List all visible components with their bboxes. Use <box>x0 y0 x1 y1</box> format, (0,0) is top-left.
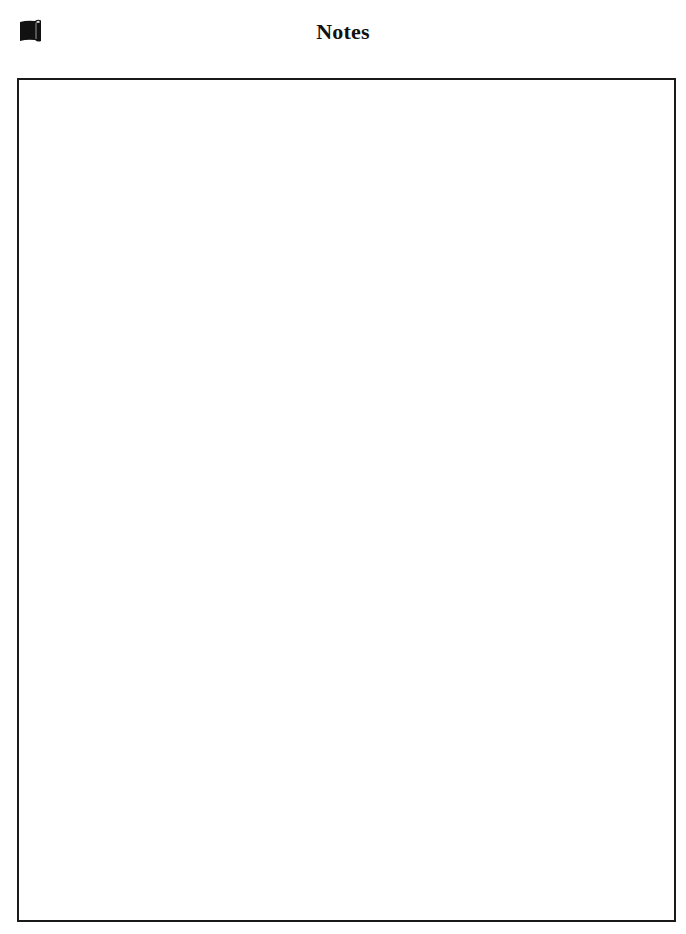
notes-area[interactable] <box>17 78 676 922</box>
page-title: Notes <box>0 17 686 47</box>
